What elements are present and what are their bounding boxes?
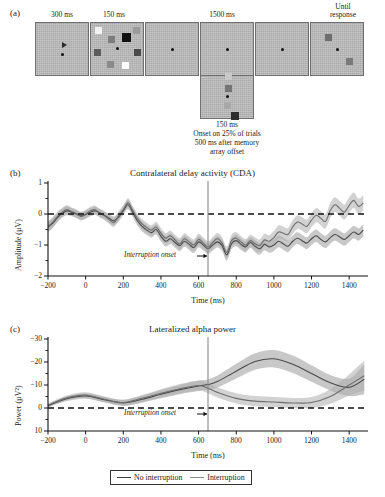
xtick-label: 1400 (329, 281, 369, 290)
xtick-label: 400 (141, 436, 181, 445)
stimulus-frame-blank-1 (145, 22, 199, 76)
memory-item (133, 27, 140, 34)
cue-arrow-icon (62, 42, 67, 48)
xtick-label: 800 (216, 281, 256, 290)
xtick-label: 1000 (254, 281, 294, 290)
ytick-label: 10 (14, 426, 42, 435)
interruption-caption-line2: 500 ms after memory (142, 138, 312, 147)
xtick-label: 600 (179, 281, 219, 290)
stimulus-frame-memory-array (90, 22, 144, 76)
interruption-onset-annotation: Interruption onset (124, 409, 176, 417)
xtick-label: 0 (66, 436, 106, 445)
ytick-label: −30 (14, 334, 42, 343)
legend-label-interruption: Interruption (207, 473, 244, 482)
legend-line-no-interruption (117, 477, 131, 479)
xtick-label: −200 (28, 281, 68, 290)
memory-item (134, 49, 141, 56)
fixation-dot (171, 48, 174, 51)
ytick-label: −20 (14, 357, 42, 366)
panel-c-plot-area: −2000200400600800100012001400100−10−20−3… (48, 339, 368, 431)
stimulus-frame-test (310, 22, 364, 76)
xtick-label: 1400 (329, 436, 369, 445)
ytick-label: 1 (14, 178, 42, 187)
duration-label-retention: 1500 ms (196, 11, 248, 20)
memory-item (122, 62, 129, 69)
figure-root: (a) 300 ms 150 ms 1500 ms Until response (0, 0, 385, 497)
panel-c-xaxis-title: Time (ms) (48, 451, 368, 460)
xtick-label: 200 (103, 281, 143, 290)
xtick-label: 0 (66, 281, 106, 290)
stimulus-frame-blank-2 (255, 22, 309, 76)
duration-label-test-line2: response (312, 11, 374, 20)
legend-line-interruption (190, 477, 204, 479)
interruption-caption-line1: Onset on 25% of trials (142, 129, 312, 138)
fixation-dot (116, 47, 119, 50)
panel-a-trial-sequence: (a) 300 ms 150 ms 1500 ms Until response (0, 0, 385, 165)
duration-label-memory-array: 150 ms (90, 11, 138, 20)
interruption-onset-annotation: Interruption onset (124, 251, 176, 259)
interruption-item (225, 85, 232, 92)
ytick-label: 0 (14, 209, 42, 218)
panel-b-yaxis-title: Amplitude (µV) (14, 219, 23, 271)
panel-b-cda-chart: (b) Contralateral delay activity (CDA) −… (0, 165, 385, 320)
panel-c-alpha-chart: (c) Lateralized alpha power −20002004006… (0, 322, 385, 472)
xtick-label: 200 (103, 436, 143, 445)
memory-item (122, 33, 131, 42)
interruption-item (231, 112, 239, 120)
xtick-label: 1000 (254, 436, 294, 445)
panel-b-plot-area: −2000200400600800100012001400−2−101Inter… (48, 183, 368, 276)
panel-c-yaxis-title: Power (µV²) (14, 385, 23, 426)
interruption-caption-line3: array offset (142, 147, 312, 156)
figure-legend: No interruption Interruption (110, 470, 252, 485)
interruption-item (224, 102, 231, 109)
stimulus-frame-interruption (200, 75, 254, 119)
panel-c-title: Lateralized alpha power (0, 324, 385, 334)
duration-label-cue: 300 ms (38, 11, 86, 20)
panel-b-xaxis-title: Time (ms) (48, 296, 368, 305)
memory-item (107, 61, 114, 68)
stimulus-frame-retention (200, 22, 254, 76)
xtick-label: −200 (28, 436, 68, 445)
interruption-item (225, 73, 232, 80)
fixation-dot (226, 95, 229, 98)
xtick-label: 600 (179, 436, 219, 445)
stimulus-frame-cue (35, 22, 89, 76)
memory-item (95, 27, 102, 34)
xtick-label: 400 (141, 281, 181, 290)
interruption-duration-label: 150 ms (142, 120, 312, 129)
test-item (346, 58, 353, 65)
legend-label-no-interruption: No interruption (134, 473, 182, 482)
ytick-label: −2 (14, 271, 42, 280)
xtick-label: 1200 (292, 436, 332, 445)
fixation-dot (336, 48, 339, 51)
xtick-label: 800 (216, 436, 256, 445)
frame-noise (36, 23, 88, 75)
legend-item-no-interruption: No interruption (117, 473, 182, 482)
xtick-label: 1200 (292, 281, 332, 290)
test-item (325, 34, 332, 41)
fixation-dot (61, 53, 64, 56)
legend-item-interruption: Interruption (190, 473, 244, 482)
fixation-dot (281, 48, 284, 51)
panel-a-letter: (a) (10, 8, 20, 18)
fixation-dot (226, 48, 229, 51)
panel-b-title: Contralateral delay activity (CDA) (0, 168, 385, 178)
memory-item (94, 49, 101, 56)
memory-item (108, 36, 115, 43)
